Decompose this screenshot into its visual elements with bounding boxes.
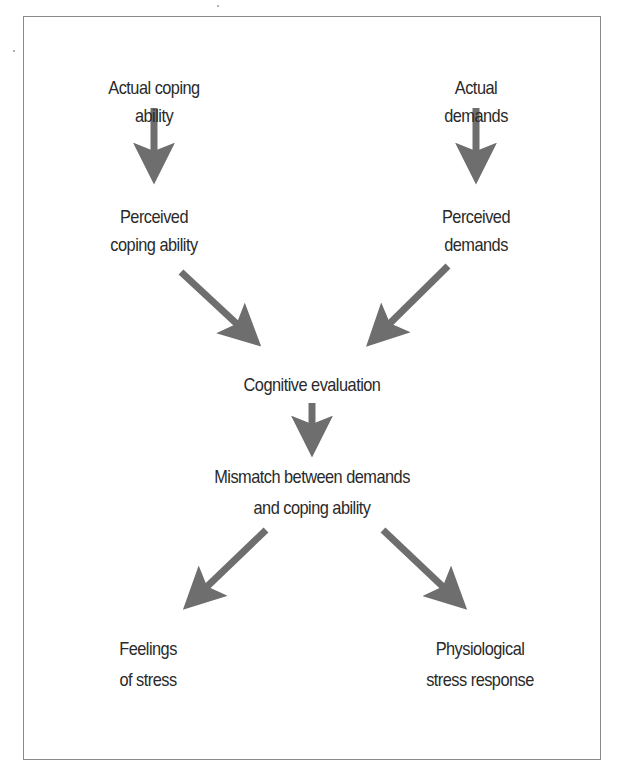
node-text-line: Mismatch between demands [140,462,484,491]
node-text-line: demands [399,101,554,130]
node-actual-coping-ability: Actual coping ability [59,73,248,130]
node-text-line: Perceived [399,202,554,231]
node-text-line: Actual [399,73,554,102]
node-text-line: stress response [394,665,566,694]
node-text-line: coping ability [59,230,248,259]
node-mismatch: Mismatch between demands and coping abil… [140,462,484,522]
node-perceived-demands: Perceived demands [399,202,554,259]
node-text-line: Perceived [59,202,248,231]
node-cognitive-evaluation: Cognitive evaluation [183,370,441,399]
node-text-line: ability [59,101,248,130]
node-physiological-stress-response: Physiological stress response [394,634,566,694]
node-text-line: Physiological [394,634,566,663]
node-text-line: and coping ability [140,493,484,522]
node-text-line: Feelings [71,634,226,663]
arrow-perceived-demands-to-cognitive-evaluation [375,266,448,338]
node-text-line: Actual coping [59,73,248,102]
node-text-line: demands [399,230,554,259]
node-perceived-coping-ability: Perceived coping ability [59,202,248,259]
node-text-line: Cognitive evaluation [183,370,441,399]
arrow-perceived-coping-to-cognitive-evaluation [181,272,252,338]
arrow-mismatch-to-physiological [383,530,458,601]
node-actual-demands: Actual demands [399,73,554,130]
node-feelings-of-stress: Feelings of stress [71,634,226,694]
node-text-line: of stress [71,665,226,694]
arrow-mismatch-to-feelings [192,530,266,601]
